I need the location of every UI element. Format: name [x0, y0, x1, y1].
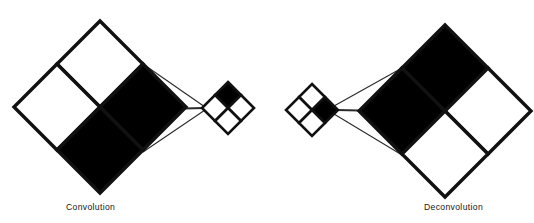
diagram-canvas: Convolution Deconvolution — [0, 0, 534, 223]
caption-deconvolution: Deconvolution — [424, 202, 483, 212]
caption-convolution: Convolution — [66, 202, 115, 212]
convolution-deconvolution-figure: Convolution Deconvolution — [0, 0, 534, 223]
